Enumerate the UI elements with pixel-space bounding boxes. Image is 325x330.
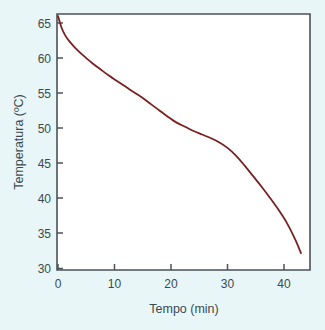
- y-tick-label: 60: [38, 52, 52, 66]
- x-tick-label: 30: [221, 277, 235, 291]
- y-tick-label: 50: [38, 122, 52, 136]
- plot-area-background: [57, 14, 310, 270]
- y-tick-label: 40: [38, 192, 52, 206]
- y-tick-label: 45: [38, 157, 52, 171]
- x-tick-label: 10: [108, 277, 122, 291]
- x-axis-title: Tempo (min): [149, 302, 218, 316]
- chart-figure: 65 60 55 50 45 40 35 30 0 10 20 30 40 Te…: [0, 0, 325, 330]
- temperature-time-plot: 65 60 55 50 45 40 35 30 0 10 20 30 40 Te…: [0, 0, 325, 330]
- x-tick-label: 40: [277, 277, 291, 291]
- y-tick-label: 30: [38, 262, 52, 276]
- y-tick-label: 65: [38, 17, 52, 31]
- x-tick-label: 20: [164, 277, 178, 291]
- y-tick-label: 55: [38, 87, 52, 101]
- x-tick-label: 0: [55, 277, 62, 291]
- y-tick-label: 35: [38, 227, 52, 241]
- y-axis-title: Temperatura (ºC): [12, 94, 26, 190]
